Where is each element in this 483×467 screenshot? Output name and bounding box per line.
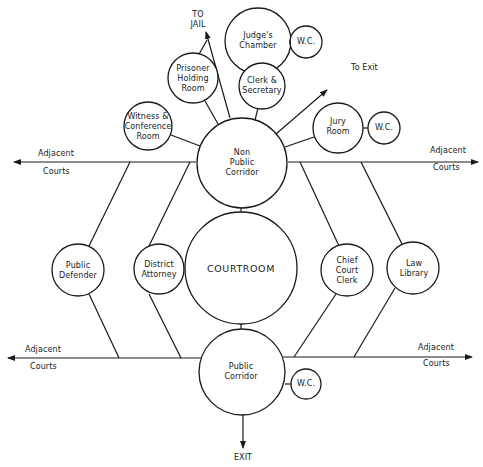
link-prisoner-holding [205, 101, 218, 124]
label-courts-top-left: Courts [43, 167, 70, 177]
label-witness-conference-room: Witness & Conference Room [125, 112, 172, 142]
link-public-defender-top [89, 162, 130, 246]
link-law-library-bottom [354, 288, 395, 357]
label-wc-judge: W.C. [297, 37, 315, 47]
label-courts-top-right: Courts [433, 163, 460, 173]
label-adjacent-top-left: Adjacent [38, 149, 74, 159]
label-adjacent-top-right: Adjacent [430, 146, 466, 156]
link-chief-clerk-top [300, 162, 339, 246]
label-courts-bottom-left: Courts [30, 362, 57, 372]
label-to-exit: To Exit [351, 63, 378, 73]
link-clerk-secretary [255, 108, 258, 120]
label-chief-court-clerk: Chief Court Clerk [336, 256, 358, 286]
label-adjacent-bottom-left: Adjacent [25, 345, 61, 355]
label-clerk-secretary: Clerk & Secretary [242, 76, 281, 96]
label-wc-public: W.C. [297, 379, 315, 389]
label-to-jail: TO JAIL [191, 10, 206, 30]
label-district-attorney: District Attorney [141, 260, 176, 280]
label-public-defender: Public Defender [59, 261, 97, 281]
label-courts-bottom-right: Courts [423, 359, 450, 369]
link-district-attorney-bottom [149, 294, 181, 358]
label-courtroom: COURTROOM [207, 264, 275, 274]
label-public-corridor: Public Corridor [224, 362, 257, 382]
label-prisoner-holding-room: Prisoner Holding Room [176, 64, 209, 94]
label-adjacent-bottom-right: Adjacent [418, 343, 454, 353]
label-exit: EXIT [234, 453, 252, 463]
link-law-library-top [361, 162, 402, 244]
label-wc-jury: W.C. [375, 123, 393, 133]
link-public-defender-bottom [89, 294, 119, 358]
link-district-attorney-top [149, 162, 190, 246]
label-law-library: Law Library [400, 259, 429, 279]
label-non-public-corridor: Non Public Corridor [225, 148, 258, 178]
link-jury-room [285, 137, 314, 147]
courtroom-adjacency-diagram [0, 0, 483, 467]
link-witness-room [171, 135, 200, 146]
label-jury-room: Jury Room [326, 117, 349, 137]
label-judges-chamber: Judge's Chamber [239, 31, 276, 51]
link-chief-clerk-bottom [294, 294, 336, 357]
